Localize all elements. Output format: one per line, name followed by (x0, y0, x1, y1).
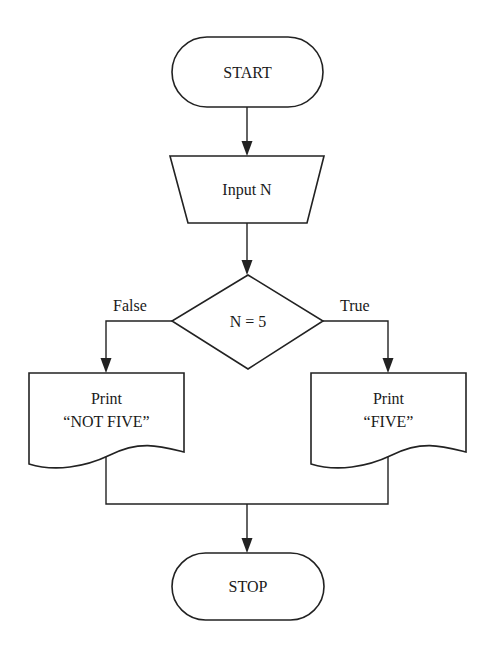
arrowhead-icon (383, 358, 394, 373)
edge-merge-to-stop (106, 457, 388, 553)
print-not-five-node: Print “NOT FIVE” (29, 373, 184, 468)
edge-input-to-decision (242, 223, 253, 275)
input-node: Input N (170, 156, 324, 223)
start-label: START (223, 64, 272, 81)
arrowhead-icon (242, 538, 253, 553)
connector-line (106, 321, 172, 362)
false-branch-label: False (113, 297, 147, 314)
edge-true-branch: True (323, 297, 394, 373)
input-label: Input N (222, 181, 272, 199)
stop-label: STOP (229, 578, 268, 595)
edge-false-branch: False (101, 297, 173, 373)
start-node: START (172, 37, 323, 107)
arrowhead-icon (101, 358, 112, 373)
print-not-five-line2: “NOT FIVE” (63, 413, 149, 430)
flowchart-canvas: START Input N N = 5 False True Print “NO… (0, 0, 493, 652)
print-five-line2: “FIVE” (364, 413, 414, 430)
decision-node: N = 5 (172, 275, 323, 369)
print-five-node: Print “FIVE” (311, 373, 466, 468)
true-branch-label: True (340, 297, 370, 314)
decision-label: N = 5 (230, 313, 267, 330)
connector-line (323, 321, 388, 362)
stop-node: STOP (172, 553, 324, 620)
print-not-five-line1: Print (91, 390, 123, 407)
print-five-line1: Print (373, 390, 405, 407)
arrowhead-icon (242, 141, 253, 156)
edge-start-to-input (242, 107, 253, 156)
arrowhead-icon (242, 260, 253, 275)
